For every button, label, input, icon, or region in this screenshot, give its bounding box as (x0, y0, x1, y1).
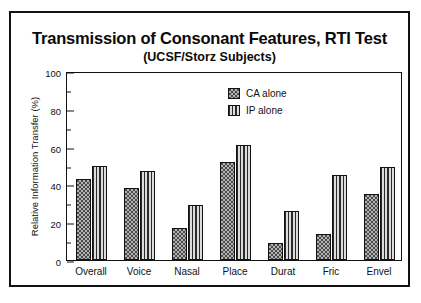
legend-label-ip: IP alone (246, 105, 283, 116)
y-tick-minor (67, 91, 71, 92)
bar-group (124, 73, 155, 260)
y-tick-major (67, 73, 74, 74)
y-tick-minor (67, 205, 71, 206)
legend-swatch-ca-icon (228, 88, 240, 99)
bar-ip (332, 175, 347, 260)
x-tick-label: Nasal (174, 266, 200, 277)
bar-group (364, 73, 395, 260)
legend-swatch-ip-icon (228, 105, 240, 116)
x-tick-label: Place (222, 266, 247, 277)
x-tick-label: Durat (271, 266, 295, 277)
y-tick-label: 60 (50, 143, 61, 154)
y-tick-minor (67, 129, 71, 130)
legend-label-ca: CA alone (246, 88, 287, 99)
bar-ip (236, 145, 251, 260)
y-tick-label: 0 (56, 257, 61, 268)
y-tick-major (67, 110, 74, 111)
bar-ip (380, 167, 395, 260)
bar-ip (140, 171, 155, 260)
bar-ca (364, 194, 379, 260)
x-tick-label: Envel (366, 266, 391, 277)
bar-ip (284, 211, 299, 260)
y-tick-label: 100 (45, 68, 61, 79)
y-tick-major (67, 224, 74, 225)
bar-ca (172, 228, 187, 260)
y-axis-title: Relative Information Transfer (%) (28, 72, 42, 261)
bar-group (316, 73, 347, 260)
chart-subtitle: (UCSF/Storz Subjects) (11, 50, 408, 64)
bar-ip (188, 205, 203, 260)
bar-ca (76, 179, 91, 260)
chart-legend: CA alone IP alone (228, 86, 287, 120)
legend-item-ip: IP alone (228, 103, 287, 117)
bar-group (172, 73, 203, 260)
x-tick-label: Fric (323, 266, 340, 277)
y-tick-major (67, 186, 74, 187)
figure-frame: Transmission of Consonant Features, RTI … (9, 11, 410, 287)
y-tick-major (67, 262, 74, 263)
bar-ip (92, 166, 107, 261)
y-tick-label: 40 (50, 181, 61, 192)
x-tick-label: Overall (75, 266, 107, 277)
y-tick-minor (67, 167, 71, 168)
y-tick-minor (67, 243, 71, 244)
y-axis-title-label: Relative Information Transfer (%) (30, 97, 41, 236)
legend-item-ca: CA alone (228, 86, 287, 100)
bar-ca (220, 162, 235, 260)
bar-ca (316, 234, 331, 260)
bar-ca (124, 188, 139, 260)
y-tick-major (67, 148, 74, 149)
bar-group (76, 73, 107, 260)
x-tick-label: Voice (127, 266, 151, 277)
chart-title: Transmission of Consonant Features, RTI … (11, 29, 408, 48)
y-tick-label: 80 (50, 105, 61, 116)
plot-area: 020406080100 OverallVoiceNasalPlaceDurat… (66, 72, 402, 261)
y-tick-label: 20 (50, 219, 61, 230)
bar-ca (268, 243, 283, 260)
